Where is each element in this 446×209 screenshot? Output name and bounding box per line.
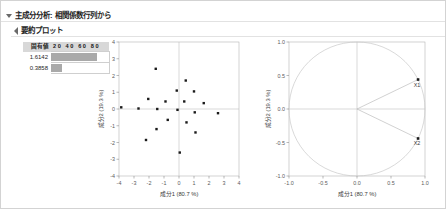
data-point bbox=[193, 90, 195, 92]
data-point bbox=[176, 89, 178, 91]
x-tick-label: 1 bbox=[193, 180, 196, 186]
eigenvalue-cell: 1.6142 bbox=[23, 52, 51, 63]
x-axis-title: 成分1 (80.7 %) bbox=[160, 190, 199, 198]
data-point bbox=[155, 68, 157, 70]
data-point bbox=[185, 121, 187, 123]
y-tick-label: 4 bbox=[112, 39, 115, 45]
outline-label-summary-plot: 要約プロット bbox=[21, 27, 63, 35]
y-tick-label: 1 bbox=[112, 89, 115, 95]
y-tick-label: 0.5 bbox=[278, 73, 286, 79]
x-tick-label: -1 bbox=[162, 180, 167, 186]
data-point bbox=[156, 108, 158, 110]
data-point bbox=[147, 98, 149, 100]
y-tick-label: -1 bbox=[110, 123, 115, 129]
bar-fill bbox=[51, 64, 62, 72]
data-point bbox=[176, 109, 178, 111]
y-tick-label: -1.0 bbox=[276, 173, 285, 179]
column-header-eigenvalue: 固有値 bbox=[23, 42, 51, 52]
triangle-down-icon[interactable] bbox=[6, 14, 12, 18]
loading-vector bbox=[357, 80, 418, 109]
data-point bbox=[194, 131, 196, 133]
data-point bbox=[203, 102, 205, 104]
data-point bbox=[120, 106, 122, 108]
x-tick-label: 2 bbox=[208, 180, 211, 186]
data-point bbox=[145, 139, 147, 141]
data-point bbox=[164, 100, 166, 102]
y-tick-label: -2 bbox=[110, 140, 115, 146]
loading-plot: -1.0-0.50.00.51.01.00.50.0-0.5-1.0X1X2成分… bbox=[253, 34, 445, 204]
y-tick-label: 0.0 bbox=[278, 106, 286, 112]
x-tick-label: -1.0 bbox=[284, 180, 293, 186]
bar-fill bbox=[51, 53, 97, 61]
outline-label-pca: 主成分分析: 相関係数行列から bbox=[15, 12, 111, 20]
y-tick-label: -0.5 bbox=[276, 140, 285, 146]
outline-rule bbox=[1, 21, 445, 22]
y-tick-label: 1.0 bbox=[278, 39, 286, 45]
y-tick-label: 0 bbox=[112, 106, 115, 112]
x-tick-label: 0.5 bbox=[387, 180, 395, 186]
data-point bbox=[167, 119, 169, 121]
y-axis-title: 成分2 (19.3 %) bbox=[264, 90, 272, 129]
x-tick-label: -3 bbox=[132, 180, 137, 186]
y-tick-label: 3 bbox=[112, 56, 115, 62]
y-axis-title: 成分2 (19.3 %) bbox=[97, 90, 105, 129]
x-tick-label: 1.0 bbox=[421, 180, 429, 186]
outline-node-pca[interactable]: 主成分分析: 相関係数行列から bbox=[1, 9, 445, 22]
triangle-right-icon[interactable] bbox=[14, 27, 18, 35]
data-point bbox=[155, 128, 157, 130]
data-point bbox=[185, 79, 187, 81]
x-tick-label: -2 bbox=[147, 180, 152, 186]
loading-point bbox=[417, 78, 420, 81]
x-tick-label: -4 bbox=[117, 180, 122, 186]
x-tick-label: 4 bbox=[238, 180, 241, 186]
data-point bbox=[137, 107, 139, 109]
y-tick-label: -4 bbox=[110, 173, 115, 179]
x-tick-label: 0.0 bbox=[353, 180, 361, 186]
eigenvalue-cell: 0.3858 bbox=[23, 63, 51, 74]
y-tick-label: 2 bbox=[112, 73, 115, 79]
loading-label: X2 bbox=[414, 140, 421, 146]
y-tick-label: -3 bbox=[110, 156, 115, 162]
pca-summary-panel: 主成分分析: 相関係数行列から 要約プロット 固有値 20 40 60 80 1… bbox=[0, 0, 446, 209]
score-plot: -4-3-2-10123443210-1-2-3-4成分1 (80.7 %)成分… bbox=[95, 34, 245, 204]
loading-plot-svg: -1.0-0.50.00.51.01.00.50.0-0.5-1.0X1X2成分… bbox=[253, 34, 445, 204]
x-axis-title: 成分1 (80.7 %) bbox=[338, 190, 377, 198]
loading-point bbox=[417, 137, 420, 140]
data-point bbox=[179, 151, 181, 153]
x-tick-label: 3 bbox=[223, 180, 226, 186]
data-point bbox=[217, 112, 219, 114]
data-point bbox=[194, 111, 196, 113]
x-tick-label: 0 bbox=[178, 180, 181, 186]
data-point bbox=[183, 100, 185, 102]
score-plot-svg: -4-3-2-10123443210-1-2-3-4成分1 (80.7 %)成分… bbox=[95, 34, 245, 204]
loading-vector bbox=[357, 109, 418, 138]
loading-label: X1 bbox=[414, 82, 421, 88]
x-tick-label: -0.5 bbox=[318, 180, 327, 186]
